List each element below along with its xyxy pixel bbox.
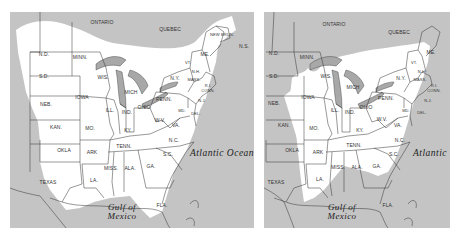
label-mo: MO. — [309, 125, 319, 131]
label-tenn: TENN. — [116, 143, 132, 149]
label-wis: WIS. — [320, 73, 331, 79]
label-va: VA. — [172, 122, 180, 128]
label-ky: KY. — [124, 127, 132, 133]
label-vt: VT. — [185, 60, 191, 65]
label-ark: ARK — [313, 149, 324, 155]
label-texas: TEXAS — [40, 179, 57, 185]
label-sd: S.D. — [269, 73, 279, 79]
label-ala: ALA. — [351, 164, 362, 170]
label-miss: MISS. — [331, 164, 345, 170]
label-mass: MASS. — [414, 77, 427, 82]
left-map-graphic — [10, 12, 254, 228]
label-nd: N.D. — [39, 51, 49, 57]
label-wis: WIS. — [97, 74, 108, 80]
label-nc: N.C. — [169, 137, 179, 143]
label-del: DEL. — [191, 111, 200, 116]
label-kan: KAN. — [50, 124, 62, 130]
label-quebec: QUEBEC — [159, 26, 181, 32]
label-quebec: QUEBEC — [388, 29, 410, 35]
label-okla: OKLA — [285, 147, 299, 153]
label-new-brunswick: NEW BRUN. — [210, 32, 234, 37]
label-me: ME. — [426, 49, 435, 55]
label-sc: S.C. — [389, 151, 399, 157]
label-ill: ILL. — [331, 107, 340, 113]
label-nd: N.D. — [269, 50, 279, 56]
label-ind: IND. — [345, 109, 355, 115]
label-del: DEL. — [417, 110, 426, 115]
label-nh: N.H. — [192, 69, 200, 74]
right-map-graphic — [264, 12, 450, 228]
label-ohio: OHIO — [359, 104, 372, 110]
label-penn: PENN. — [378, 95, 394, 101]
label-vt: VT. — [411, 60, 417, 65]
label-tenn: TENN. — [346, 142, 362, 148]
label-nj: N.J. — [198, 98, 206, 103]
label-sd: S.D. — [39, 73, 49, 79]
label-neb: NEB. — [40, 101, 52, 107]
label-nc: N.C. — [395, 137, 405, 143]
label-gulf-of-mexico: Gulf of Mexico — [328, 203, 357, 222]
label-me: ME. — [200, 51, 209, 57]
label-ark: ARK — [87, 149, 98, 155]
label-la: LA. — [316, 176, 324, 182]
label-mich: MICH — [124, 89, 137, 95]
label-gulf-of-mexico: Gulf of Mexico — [108, 203, 137, 222]
label-iowa: IOWA — [301, 94, 315, 100]
label-wv: W.V. — [155, 117, 166, 123]
label-la: LA. — [90, 177, 98, 183]
label-nova-scotia: N.S. — [239, 43, 249, 49]
label-nh: N.H. — [418, 69, 426, 74]
label-texas: TEXAS — [268, 179, 285, 185]
label-atlantic-ocean: Atlantic Ocean — [190, 149, 254, 159]
label-mass: MASS. — [188, 77, 201, 82]
right-range-map: ONTARIO QUEBEC N.D. S.D. NEB. KAN. OKLA … — [264, 12, 450, 228]
label-mich: MICH — [346, 84, 359, 90]
label-penn: PENN. — [156, 96, 172, 102]
label-fla: FLA. — [157, 202, 168, 208]
label-ontario: ONTARIO — [322, 21, 345, 27]
label-ontario: ONTARIO — [90, 19, 113, 25]
label-fla: FLA. — [383, 202, 394, 208]
label-okla: OKLA — [57, 147, 71, 153]
label-md: MD. — [178, 108, 186, 113]
label-ala: ALA. — [124, 165, 135, 171]
label-ga: GA. — [373, 163, 382, 169]
label-va: VA. — [394, 122, 402, 128]
label-kan: KAN. — [278, 122, 290, 128]
left-range-map: ONTARIO QUEBEC NEW BRUN. N.S. N.D. S.D. … — [10, 12, 254, 228]
label-ny: N.Y. — [170, 75, 179, 81]
label-nj: N.J. — [424, 98, 432, 103]
label-wv: W.V. — [377, 116, 388, 122]
label-miss: MISS. — [104, 165, 118, 171]
label-conn: CONN. — [427, 88, 440, 93]
label-md: MD. — [402, 108, 410, 113]
gulf-line-2: Mexico — [328, 212, 357, 221]
label-ill: ILL. — [106, 107, 115, 113]
label-ga: GA. — [147, 163, 156, 169]
label-iowa: IOWA — [75, 94, 89, 100]
label-atlantic: Atlantic — [413, 149, 447, 159]
label-mo: MO. — [85, 125, 95, 131]
label-ky: KY. — [356, 127, 364, 133]
label-conn: CONN. — [201, 88, 214, 93]
gulf-line-2: Mexico — [108, 212, 137, 221]
label-ohio: OHIO — [137, 104, 150, 110]
label-neb: NEB. — [268, 100, 280, 106]
label-minn: MINN. — [300, 54, 315, 60]
label-ny: N.Y. — [396, 75, 405, 81]
label-sc: S.C. — [163, 151, 173, 157]
label-ind: IND. — [122, 109, 132, 115]
label-minn: MINN. — [73, 54, 88, 60]
